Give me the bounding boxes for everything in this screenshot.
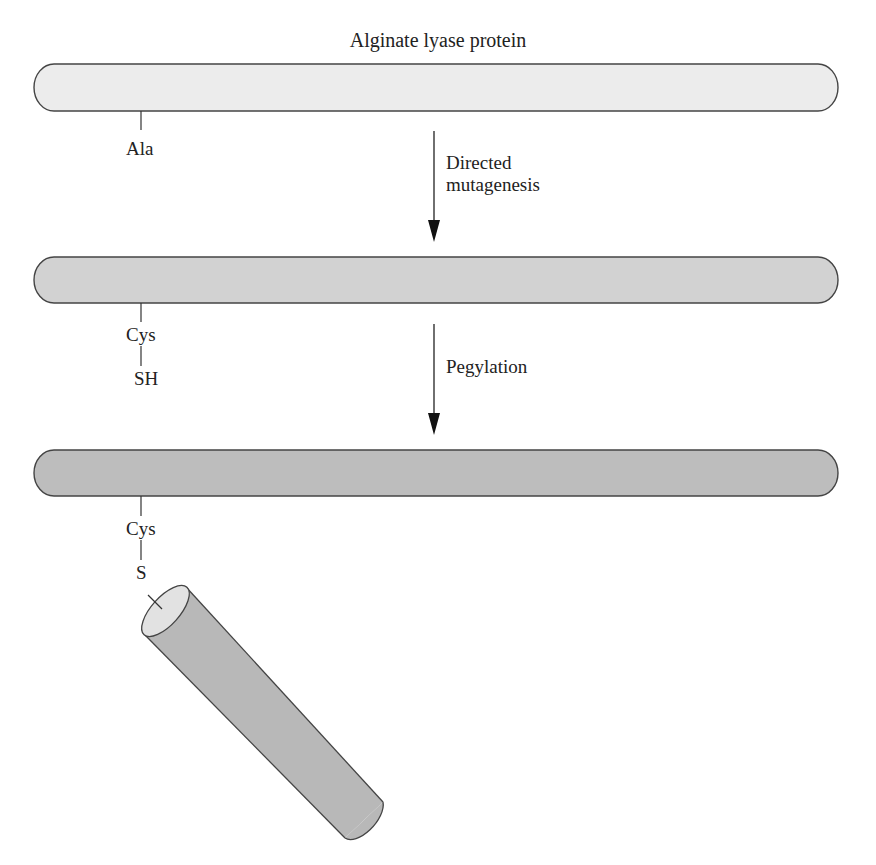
residue-label-ala: Ala (126, 138, 153, 159)
protein-bar-native (34, 64, 838, 111)
diagram-canvas: Alginate lyase protein Ala Directed muta… (0, 0, 876, 865)
protein-bar-mutant (34, 257, 838, 303)
group-label-sh: SH (134, 368, 158, 389)
group-label-s: S (136, 562, 147, 583)
pegylation-arrow-head (428, 413, 440, 435)
diagram-title: Alginate lyase protein (0, 30, 876, 51)
peg-cylinder (134, 578, 384, 840)
protein-bar-pegylated (34, 450, 838, 496)
diagram-graphics (0, 0, 876, 865)
step-label-pegylation: Pegylation (446, 356, 527, 377)
peg-cylinder-body (145, 587, 383, 838)
step-label-line1-mutagenesis: Directed (446, 152, 511, 173)
residue-label-cys-pegylated: Cys (126, 518, 156, 539)
step-label-line2-mutagenesis: mutagenesis (446, 174, 540, 195)
residue-label-cys-mutant: Cys (126, 324, 156, 345)
mutagenesis-arrow-head (428, 220, 440, 242)
